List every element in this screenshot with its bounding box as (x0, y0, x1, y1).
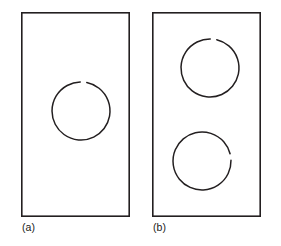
ring-b-lower-gap-right (172, 131, 232, 191)
panel-a-label: (a) (22, 222, 35, 233)
ring-a-gap-top (51, 81, 111, 141)
ring-b-upper-gap-top (180, 38, 240, 98)
figure-canvas: (a) (b) (0, 0, 281, 246)
panel-b-label: (b) (153, 222, 166, 233)
